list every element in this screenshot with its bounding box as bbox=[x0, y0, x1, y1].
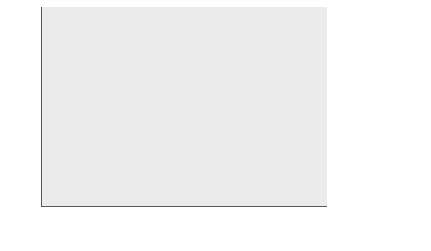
legend bbox=[335, 48, 431, 55]
y-axis-ticks bbox=[0, 0, 42, 251]
transition-rate-stacked-bar-chart bbox=[0, 0, 431, 251]
bar-group bbox=[42, 7, 327, 206]
x-axis-line bbox=[41, 206, 327, 207]
plot-area bbox=[42, 7, 327, 206]
